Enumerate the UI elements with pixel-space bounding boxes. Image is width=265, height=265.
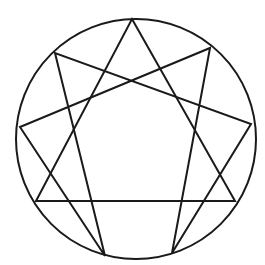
enneagram-svg: [0, 0, 265, 265]
inner-triangle: [36, 19, 235, 201]
hexad-figure: [20, 48, 251, 256]
outer-circle: [16, 19, 256, 259]
enneagram-diagram: [0, 0, 265, 265]
